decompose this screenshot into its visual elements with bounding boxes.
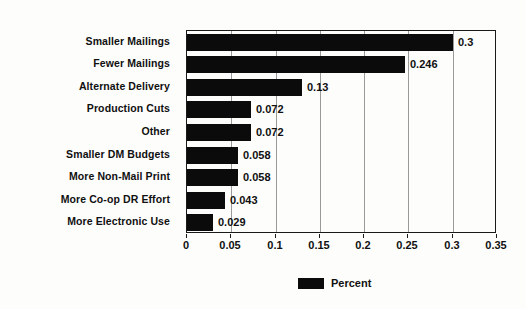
x-tick-label: 0.05	[219, 239, 240, 251]
category-label: Smaller Mailings	[86, 33, 170, 50]
x-tick-label: 0	[183, 239, 189, 251]
x-tick-label: 0.1	[267, 239, 282, 251]
bar-value-label: 0.3	[453, 34, 473, 51]
x-tick-mark	[319, 234, 320, 238]
bars-layer: 0.30.2460.130.0720.0720.0580.0580.0430.0…	[187, 31, 495, 232]
bar-row: 0.058	[187, 169, 497, 186]
category-label: Alternate Delivery	[79, 78, 170, 95]
bar-row: 0.029	[187, 214, 497, 231]
bar	[187, 124, 251, 141]
legend-swatch-percent	[298, 278, 324, 289]
bar	[187, 79, 302, 96]
bar-row: 0.246	[187, 56, 497, 73]
bar-value-label: 0.029	[213, 214, 246, 231]
category-axis-labels: Smaller MailingsFewer MailingsAlternate …	[0, 30, 178, 233]
x-tick-mark	[275, 234, 276, 238]
bar	[187, 56, 405, 73]
x-tick-label: 0.15	[308, 239, 329, 251]
x-tick-label: 0.25	[396, 239, 417, 251]
bar-row: 0.3	[187, 34, 497, 51]
x-tick-mark	[496, 234, 497, 238]
plot-area: 0.30.2460.130.0720.0720.0580.0580.0430.0…	[186, 30, 496, 233]
bar-value-label: 0.246	[405, 56, 438, 73]
x-tick-label: 0.2	[355, 239, 370, 251]
category-label: More Non-Mail Print	[69, 168, 170, 185]
bar-value-label: 0.13	[302, 79, 328, 96]
x-tick-label: 0.3	[444, 239, 459, 251]
bar	[187, 147, 238, 164]
bar	[187, 34, 453, 51]
x-tick-label: 0.35	[485, 239, 506, 251]
x-axis: 00.050.10.150.20.250.30.35	[186, 234, 497, 256]
bar-value-label: 0.072	[251, 101, 284, 118]
x-tick-mark	[186, 234, 187, 238]
legend: Percent	[298, 276, 371, 290]
bar-row: 0.072	[187, 101, 497, 118]
x-tick-mark	[363, 234, 364, 238]
bar-value-label: 0.058	[238, 147, 271, 164]
x-tick-mark	[230, 234, 231, 238]
category-label: Fewer Mailings	[93, 55, 170, 72]
category-label: Smaller DM Budgets	[66, 146, 170, 163]
category-label: Other	[141, 123, 170, 140]
x-tick-mark	[407, 234, 408, 238]
x-tick-mark	[452, 234, 453, 238]
bar-chart: Smaller MailingsFewer MailingsAlternate …	[0, 0, 526, 309]
bar-value-label: 0.058	[238, 169, 271, 186]
bar-row: 0.058	[187, 147, 497, 164]
bar-value-label: 0.072	[251, 124, 284, 141]
bar-row: 0.043	[187, 192, 497, 209]
bar-value-label: 0.043	[225, 192, 258, 209]
category-label: Production Cuts	[87, 100, 170, 117]
bar	[187, 192, 225, 209]
category-label: More Co-op DR Effort	[61, 191, 170, 208]
bar-row: 0.072	[187, 124, 497, 141]
bar	[187, 169, 238, 186]
bar	[187, 101, 251, 118]
bar	[187, 214, 213, 231]
legend-label-percent: Percent	[331, 277, 371, 289]
category-label: More Electronic Use	[67, 213, 170, 230]
bar-row: 0.13	[187, 79, 497, 96]
